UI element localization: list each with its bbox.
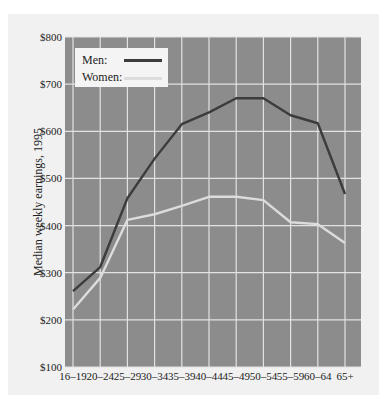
x-tick-label: 50–54 [250, 370, 278, 382]
x-tick-label: 40–44 [195, 370, 223, 382]
y-tick-label: $800 [40, 31, 63, 43]
legend-swatch-men [124, 59, 162, 62]
x-axis-ticks: 16–1920–2425–2930–3435–3940–4445–4950–54… [59, 370, 353, 382]
y-axis-label: Median weekly earnings, 1995 [31, 128, 45, 276]
x-tick-label: 16–19 [59, 370, 87, 382]
y-tick-label: $200 [40, 314, 63, 326]
legend-item-men: Men: [82, 53, 107, 68]
legend-swatch-women [124, 77, 162, 80]
x-tick-label: 20–24 [86, 370, 114, 382]
x-tick-label: 25–29 [114, 370, 142, 382]
x-tick-label: 60–64 [304, 370, 332, 382]
legend-item-women: Women: [82, 70, 122, 85]
y-tick-label: $700 [40, 78, 63, 90]
x-tick-label: 45–49 [222, 370, 250, 382]
x-tick-label: 55–59 [277, 370, 305, 382]
x-tick-label: 65+ [336, 370, 353, 382]
x-tick-label: 35–39 [168, 370, 196, 382]
legend-label: Women: [82, 70, 122, 84]
legend-label: Men: [82, 53, 107, 67]
x-tick-label: 30–34 [141, 370, 169, 382]
legend: Men: Women: [75, 48, 168, 87]
line-chart: $100$200$300$400$500$600$700$800 16–1920… [0, 0, 389, 404]
